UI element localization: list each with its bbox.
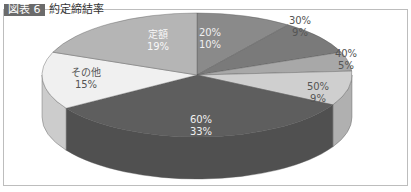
pie-chart: 20%10%30%9%40%5%50%9%60%33%その他15%定額19% [0, 0, 411, 192]
slice-label-name: 20% [199, 27, 221, 38]
slice-label-pct: 9% [310, 93, 326, 104]
slice-label-pct: 5% [338, 60, 354, 71]
slice-label-pct: 33% [190, 126, 212, 137]
slice-label-pct: 15% [75, 79, 97, 90]
slice-label-name: 50% [307, 81, 329, 92]
slice-label-pct: 19% [147, 41, 169, 52]
slice-label-name: 60% [190, 114, 212, 125]
slice-label-name: 定額 [148, 28, 168, 40]
slice-label-name: 30% [289, 15, 311, 26]
slice-label-name: その他 [71, 66, 101, 78]
slice-label-pct: 9% [292, 27, 308, 38]
slice-label-pct: 10% [199, 39, 221, 50]
slice-label-name: 40% [335, 48, 357, 59]
